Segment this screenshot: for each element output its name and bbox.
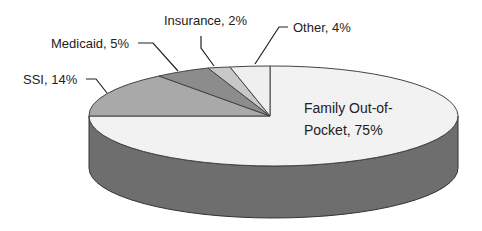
label-ssi: SSI, 14% bbox=[23, 72, 77, 87]
label-family-line2: Pocket, 75% bbox=[304, 119, 393, 141]
leader-line-insurance bbox=[201, 36, 214, 66]
label-family-line1: Family Out-of- bbox=[304, 97, 393, 119]
label-family-out-of-pocket: Family Out-of- Pocket, 75% bbox=[304, 97, 393, 141]
leader-line-ssi bbox=[86, 79, 107, 93]
label-medicaid: Medicaid, 5% bbox=[51, 36, 129, 51]
pie-chart bbox=[0, 0, 482, 231]
leader-line-medicaid bbox=[138, 43, 178, 71]
label-other: Other, 4% bbox=[293, 20, 351, 35]
label-insurance: Insurance, 2% bbox=[164, 13, 247, 28]
leader-line-other bbox=[255, 27, 288, 64]
